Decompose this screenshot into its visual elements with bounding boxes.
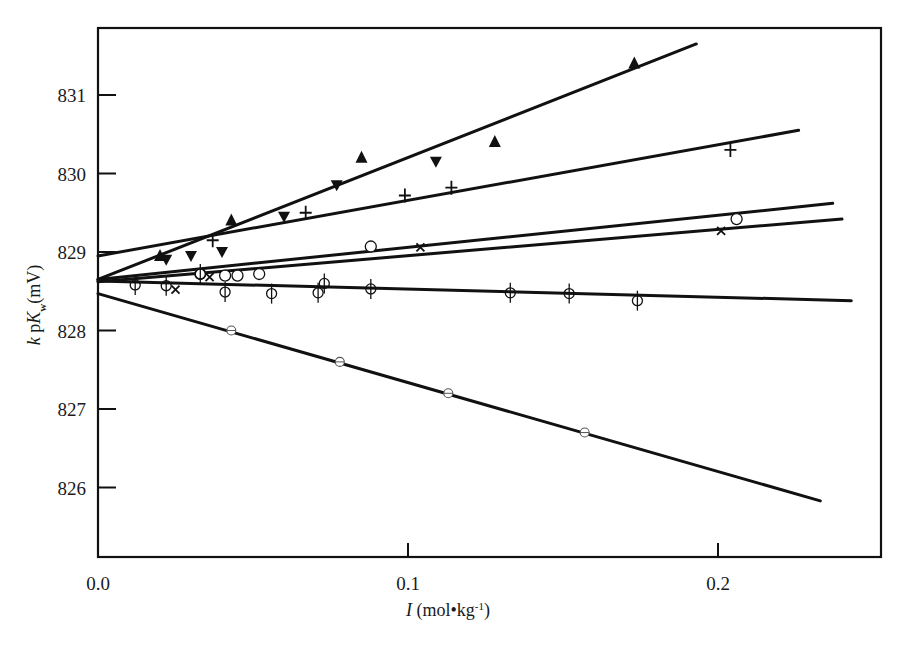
- y-tick-label: 828: [58, 321, 87, 342]
- data-point: [225, 214, 237, 226]
- data-point: [731, 214, 742, 225]
- y-tick-label: 826: [58, 478, 87, 499]
- data-point: [365, 241, 376, 252]
- data-point: [430, 157, 442, 168]
- x-axis: 0.00.10.2: [86, 543, 730, 594]
- data-point: [172, 286, 180, 294]
- data-point: [489, 135, 501, 147]
- fit-line-filled-up-triangle: [98, 44, 696, 280]
- fit-lines: [98, 44, 851, 501]
- y-tick-label: 830: [58, 164, 87, 185]
- y-tick-label: 831: [58, 85, 87, 106]
- fit-line-small-open-circle: [98, 294, 820, 501]
- y-tick-label: 827: [58, 399, 87, 420]
- y-axis: 826827828829830831: [58, 85, 117, 499]
- data-point: [185, 251, 197, 262]
- fit-line-plus: [98, 130, 799, 256]
- data-point: [232, 270, 243, 281]
- data-point: [724, 143, 736, 157]
- data-point: [254, 268, 265, 279]
- data-point: [628, 57, 640, 69]
- fit-line-open-circle: [98, 203, 833, 279]
- data-point: [220, 270, 231, 281]
- x-tick-label: 0.0: [86, 573, 110, 594]
- x-tick-label: 0.1: [396, 573, 420, 594]
- y-axis-title: k pKw(mV): [24, 265, 48, 345]
- chart-canvas: 826827828829830831 0.00.10.2 I (mol•kg-1…: [0, 0, 898, 647]
- fit-line-cross: [98, 219, 842, 282]
- fit-line-circle-with-errorbar: [98, 281, 851, 301]
- y-tick-label: 829: [58, 242, 87, 263]
- series-plus: [207, 143, 737, 247]
- data-point: [206, 273, 214, 281]
- data-point: [356, 151, 368, 163]
- x-tick-label: 0.2: [706, 573, 730, 594]
- data-points: [130, 57, 742, 437]
- x-axis-title: I (mol•kg-1): [405, 600, 490, 621]
- data-point: [216, 247, 228, 258]
